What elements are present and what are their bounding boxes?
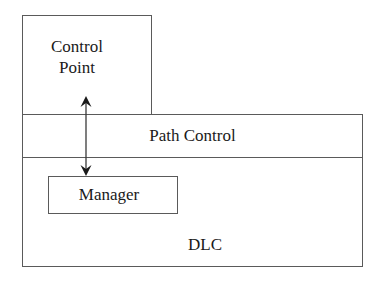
control-point-label: Control Point — [22, 36, 132, 78]
path-control-label: Path Control — [22, 125, 363, 146]
control-point-label-line2: Point — [22, 57, 132, 78]
control-point-label-line1: Control — [22, 36, 132, 57]
dlc-label: DLC — [150, 234, 260, 255]
path-control-divider — [22, 157, 363, 158]
manager-label: Manager — [48, 184, 170, 205]
